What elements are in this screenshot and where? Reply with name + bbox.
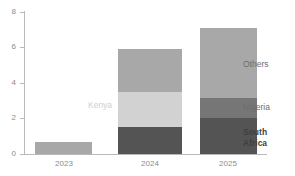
bar-2024[interactable] (118, 12, 182, 154)
stacked-bar-chart: 8 6 4 2 0 2023 2024 2025 Kenya Others Ni… (0, 0, 295, 176)
segment-2024-others[interactable] (118, 49, 182, 92)
y-tick-0 (20, 154, 24, 155)
x-tick-label-2025: 2025 (207, 159, 249, 168)
segment-2023-others[interactable] (35, 142, 92, 154)
segment-2024-south-africa[interactable] (118, 127, 182, 154)
series-label-nigeria: Nigeria (243, 102, 270, 112)
x-axis-line (24, 154, 267, 155)
series-label-south-africa-line1: South (243, 127, 267, 137)
series-label-kenya: Kenya (88, 101, 112, 110)
bar-2023[interactable] (35, 12, 92, 154)
series-label-south-africa-line2: Africa (243, 138, 267, 148)
x-tick-label-2024: 2024 (129, 159, 171, 168)
segment-2024-kenya[interactable] (118, 92, 182, 127)
x-tick-label-2023: 2023 (43, 159, 85, 168)
series-label-others: Others (243, 59, 269, 69)
